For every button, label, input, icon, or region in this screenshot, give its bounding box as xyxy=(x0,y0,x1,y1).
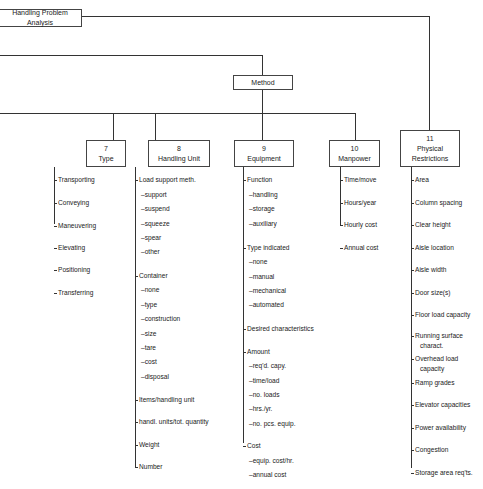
list-item: Container xyxy=(139,272,168,280)
branch-tick xyxy=(54,203,57,204)
list-item: Transferring xyxy=(58,289,93,297)
node-number: 9 xyxy=(262,144,266,154)
equipment-trunk xyxy=(243,167,244,443)
branch-tick xyxy=(411,270,414,271)
list-item: Annual cost xyxy=(344,244,378,252)
node-title: Equipment xyxy=(247,154,280,164)
list-item: Congestion xyxy=(415,446,448,454)
node-number: 11 xyxy=(426,134,433,144)
list-subitem: –storage xyxy=(249,205,275,213)
branch-tick xyxy=(411,405,414,406)
list-subitem: –automated xyxy=(249,301,284,309)
list-item: Power availability xyxy=(415,424,466,432)
list-item: Overhead load xyxy=(415,355,458,363)
list-item: Elevator capacities xyxy=(415,401,470,409)
list-subitem: –cost xyxy=(141,358,157,366)
branch-tick xyxy=(411,383,414,384)
list-item: Ramp grades xyxy=(415,379,455,387)
list-subitem: –construction xyxy=(141,315,180,323)
root-node-handling-problem-analysis: Handling Problem Analysis xyxy=(0,9,82,27)
list-subitem: –other xyxy=(141,248,160,256)
branch-tick xyxy=(411,428,414,429)
node-type: 7 Type xyxy=(86,140,126,167)
list-subitem: –handling xyxy=(249,191,278,199)
list-item: Type indicated xyxy=(247,244,290,252)
connector-to-manpower xyxy=(355,113,356,140)
list-item: Door size(s) xyxy=(415,289,451,297)
branch-tick xyxy=(411,225,414,226)
list-subitem: –no. loads xyxy=(249,391,279,399)
connector-to-method xyxy=(262,55,263,75)
branch-tick xyxy=(243,352,246,353)
branch-tick xyxy=(243,329,246,330)
list-item: Time/move xyxy=(344,176,376,184)
list-item: Aisle width xyxy=(415,266,447,274)
branch-tick xyxy=(135,180,138,181)
list-item: Positioning xyxy=(58,266,90,274)
list-item: Running surface xyxy=(415,332,463,340)
branch-tick xyxy=(411,473,414,474)
branch-tick xyxy=(411,180,414,181)
list-subitem: capacity xyxy=(420,365,444,373)
branch-tick xyxy=(135,445,138,446)
list-item: Clear height xyxy=(415,221,451,229)
connector-to-physical xyxy=(429,16,430,130)
list-item: Load support meth. xyxy=(139,176,196,184)
connector-root-top xyxy=(82,16,430,17)
list-item: Elevating xyxy=(58,244,85,252)
list-item: Cost xyxy=(247,442,261,450)
branch-tick xyxy=(54,248,57,249)
node-handling-unit: 8 Handling Unit xyxy=(148,140,210,167)
list-subitem: –annual cost xyxy=(249,471,286,479)
branch-tick xyxy=(340,180,343,181)
list-item: Maneuvering xyxy=(58,222,96,230)
list-subitem: –support xyxy=(141,191,167,199)
list-subitem: –mechanical xyxy=(249,287,286,295)
list-item: Amount xyxy=(247,348,270,356)
branch-tick xyxy=(340,248,343,249)
list-item: Weight xyxy=(139,441,159,449)
branch-tick xyxy=(54,293,57,294)
list-item: handl. units/tot. quantity xyxy=(139,418,209,426)
node-number: 10 xyxy=(351,144,359,154)
list-item: Floor load capacity xyxy=(415,311,470,319)
branch-tick xyxy=(54,270,57,271)
list-subitem: –none xyxy=(249,258,267,266)
branch-tick xyxy=(411,336,414,337)
node-title: Type xyxy=(98,154,113,164)
branch-tick xyxy=(135,422,138,423)
connector-columns-bus xyxy=(0,113,356,114)
method-node: Method xyxy=(233,75,293,90)
manpower-trunk xyxy=(340,167,341,225)
list-subitem: charact. xyxy=(420,342,443,350)
list-item: Storage area req'ts. xyxy=(415,469,473,477)
list-item: Items/handling unit xyxy=(139,396,194,404)
list-subitem: –size xyxy=(141,330,156,338)
list-subitem: –suspend xyxy=(141,205,170,213)
list-subitem: –squeeze xyxy=(141,220,170,228)
node-title: Handling Unit xyxy=(158,154,200,164)
root-label: Handling Problem Analysis xyxy=(0,8,81,28)
branch-tick xyxy=(411,203,414,204)
list-subitem: –hrs./yr. xyxy=(249,405,272,413)
branch-tick xyxy=(243,446,246,447)
list-subitem: –spear xyxy=(141,234,161,242)
list-subitem: –time/load xyxy=(249,377,279,385)
node-equipment: 9 Equipment xyxy=(234,140,294,167)
node-title: Manpower xyxy=(338,154,371,164)
branch-tick xyxy=(411,315,414,316)
branch-tick xyxy=(411,248,414,249)
branch-tick xyxy=(411,359,414,360)
node-title-line-1: Physical xyxy=(417,144,443,154)
branch-tick xyxy=(340,203,343,204)
connector-to-type xyxy=(113,113,114,140)
list-item: Column spacing xyxy=(415,199,462,207)
list-subitem: –none xyxy=(141,286,159,294)
list-subitem: –manual xyxy=(249,273,274,281)
list-item: Transporting xyxy=(58,176,95,184)
branch-tick xyxy=(54,180,57,181)
list-subitem: –equip. cost/hr. xyxy=(249,457,294,465)
node-number: 8 xyxy=(177,144,181,154)
branch-tick xyxy=(135,400,138,401)
branch-tick xyxy=(54,226,57,227)
